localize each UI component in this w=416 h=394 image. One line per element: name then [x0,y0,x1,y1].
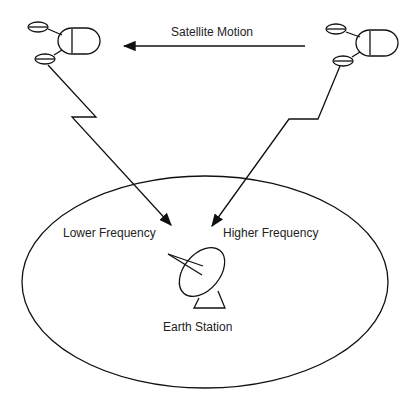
satellite-right-icon [326,24,398,66]
earth-coverage-ellipse [22,176,388,388]
satellite-left-icon [28,22,100,64]
higher-frequency-beam [212,66,340,226]
earth-station-dish-icon [168,239,234,308]
lower-frequency-label: Lower Frequency [63,226,156,240]
lower-frequency-beam [48,65,171,225]
satellite-motion-label: Satellite Motion [171,25,253,39]
higher-frequency-label: Higher Frequency [223,226,318,240]
earth-station-label: Earth Station [163,320,232,334]
diagram-canvas [0,0,416,394]
